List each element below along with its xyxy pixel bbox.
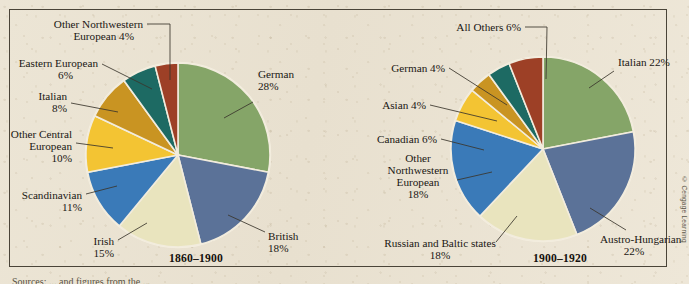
label-other-nw-european-r-2: Northwestern	[388, 164, 449, 176]
label-all-others: All Others 6%	[456, 21, 521, 33]
label-other-northwestern-2: European 4%	[73, 30, 134, 42]
label-other-northwestern: Other Northwestern	[54, 18, 144, 30]
label-asian: Asian 4%	[382, 99, 426, 111]
pie-charts-canvas: German 28% British 18% Irish 15% Scandin…	[0, 0, 689, 284]
label-canadian: Canadian 6%	[377, 133, 437, 145]
label-italian: Italian	[38, 90, 67, 102]
label-eastern-european-pct: 6%	[58, 69, 73, 81]
period-label-right: 1900–1920	[533, 252, 587, 265]
label-italian-pct: 8%	[52, 102, 67, 114]
footnote-cut-off: Sources: ... and figures from the ...	[12, 277, 150, 284]
label-eastern-european: Eastern European	[19, 57, 99, 69]
label-british: British	[268, 230, 299, 242]
label-russian-baltic: Russian and Baltic states	[384, 237, 496, 249]
label-scandinavian-pct: 11%	[62, 201, 82, 213]
label-other-nw-european-r: Other	[405, 152, 431, 164]
pie-slices-group	[85, 56, 636, 248]
period-label-left: 1860–1900	[169, 252, 223, 265]
label-russian-baltic-pct: 18%	[430, 249, 451, 261]
copyright-credit: © Cengage Learning	[681, 176, 688, 243]
label-german-pct: 28%	[258, 80, 279, 92]
label-other-central-pct: 10%	[51, 152, 72, 164]
label-german-r: German 4%	[391, 62, 445, 74]
label-other-central: Other Central	[11, 128, 72, 140]
label-irish-pct: 15%	[93, 247, 114, 259]
pie-right	[450, 56, 636, 242]
label-austro-hungarian: Austro-Hungarian	[600, 233, 682, 245]
label-austro-hungarian-pct: 22%	[624, 245, 645, 257]
label-british-pct: 18%	[268, 242, 289, 254]
label-german: German	[258, 68, 294, 80]
label-other-nw-european-r-pct: 18%	[408, 188, 429, 200]
label-irish: Irish	[93, 235, 114, 247]
label-other-central-2: European	[29, 140, 72, 152]
label-italian-r: Italian 22%	[618, 56, 670, 68]
label-other-nw-european-r-3: European	[397, 176, 440, 188]
label-scandinavian: Scandinavian	[22, 189, 83, 201]
pie-left	[85, 62, 271, 248]
